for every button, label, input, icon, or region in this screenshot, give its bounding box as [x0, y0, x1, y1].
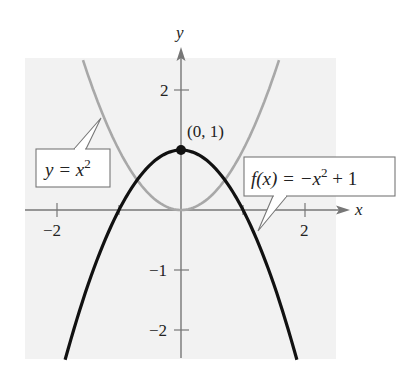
graph-canvas: x y −2 2 2 −1 −2 (0, 1) y = x2 f(x) = −x… — [0, 0, 419, 378]
callout-gray-curve-text: y = x2 — [43, 156, 91, 180]
y-axis-label: y — [174, 23, 184, 42]
x-tick-label--2: −2 — [43, 221, 61, 240]
x-tick-label-2: 2 — [300, 221, 309, 240]
callout-black-curve-text: f(x) = −x2 + 1 — [251, 165, 357, 190]
y-tick-label-2: 2 — [160, 81, 169, 100]
x-axis-label: x — [354, 200, 363, 219]
y-tick-label--2: −2 — [149, 321, 167, 340]
vertex-point-label: (0, 1) — [187, 122, 224, 141]
vertex-point-marker — [176, 145, 186, 155]
y-tick-label--1: −1 — [149, 261, 167, 280]
